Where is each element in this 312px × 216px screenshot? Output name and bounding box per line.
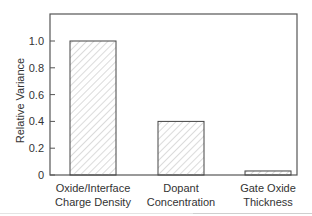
bar [245, 171, 291, 175]
y-tick-label: 0.4 [29, 115, 44, 127]
y-tick-label: 0.2 [29, 142, 44, 154]
x-category-label: Oxide/Interface [56, 182, 131, 194]
y-tick-label: 1.0 [29, 35, 44, 47]
y-axis-title: Relative Variance [14, 58, 26, 143]
x-category-label: Dopant [163, 182, 198, 194]
x-category-label: Thickness [243, 196, 293, 208]
bar-chart: 00.20.40.60.81.0Relative VarianceOxide/I… [0, 0, 312, 216]
y-tick-label: 0.6 [29, 89, 44, 101]
divider [0, 213, 312, 214]
plot-area: 00.20.40.60.81.0Relative VarianceOxide/I… [14, 14, 297, 208]
x-category-label: Concentration [147, 196, 216, 208]
x-category-label: Charge Density [55, 196, 131, 208]
x-category-label: Gate Oxide [240, 182, 296, 194]
y-tick-label: 0.8 [29, 62, 44, 74]
bar [70, 41, 116, 175]
y-tick-label: 0 [38, 169, 44, 181]
bar [158, 121, 204, 175]
